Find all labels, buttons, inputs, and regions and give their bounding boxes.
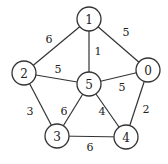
node-3: 3 (45, 124, 69, 148)
edge-weight-label: 2 (143, 103, 150, 116)
node-label: 3 (53, 130, 61, 144)
edge-weight-label: 3 (27, 105, 34, 118)
edge-weight-label: 5 (123, 26, 130, 39)
edge-weight-label: 1 (95, 45, 102, 58)
edge-weight-label: 6 (46, 33, 53, 46)
node-label: 4 (122, 131, 130, 145)
node-1: 1 (77, 7, 101, 31)
node-label: 0 (144, 64, 152, 78)
node-0: 0 (136, 58, 160, 82)
node-4: 4 (114, 125, 138, 149)
nodes: 012345 (12, 7, 160, 149)
edge-weight-label: 5 (119, 81, 126, 94)
node-label: 2 (20, 67, 28, 81)
graph-diagram: 6155536426 012345 (0, 0, 168, 164)
edge-weight-label: 6 (87, 141, 94, 154)
node-2: 2 (12, 61, 36, 85)
edge-weight-label: 4 (99, 105, 106, 118)
node-5: 5 (77, 72, 101, 96)
node-label: 5 (85, 78, 93, 92)
node-label: 1 (85, 13, 93, 27)
edge-weight-label: 5 (55, 63, 62, 76)
edge-weight-label: 6 (61, 105, 68, 118)
